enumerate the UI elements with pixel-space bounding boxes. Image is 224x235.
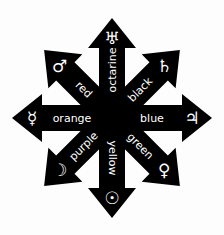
chaos-star: octarine♅black♄blue♃green♀yellow☉purple☽… <box>0 0 224 235</box>
jupiter-icon: ♃ <box>184 108 199 128</box>
label-octarine: octarine <box>106 47 119 92</box>
label-yellow: yellow <box>106 140 119 175</box>
mercury-icon: ☿ <box>27 108 37 128</box>
arm-octarine: octarine♅ <box>104 28 119 93</box>
label-blue: blue <box>140 112 164 125</box>
saturn-icon: ♄ <box>157 56 172 76</box>
arm-yellow: yellow☉ <box>104 140 119 208</box>
venus-icon: ♀ <box>158 160 170 180</box>
uranus-icon: ♅ <box>104 28 119 48</box>
sun-icon: ☉ <box>104 188 119 208</box>
mars-icon: ♂ <box>52 56 67 76</box>
moon-icon: ☽ <box>52 160 67 180</box>
label-orange: orange <box>53 112 92 125</box>
